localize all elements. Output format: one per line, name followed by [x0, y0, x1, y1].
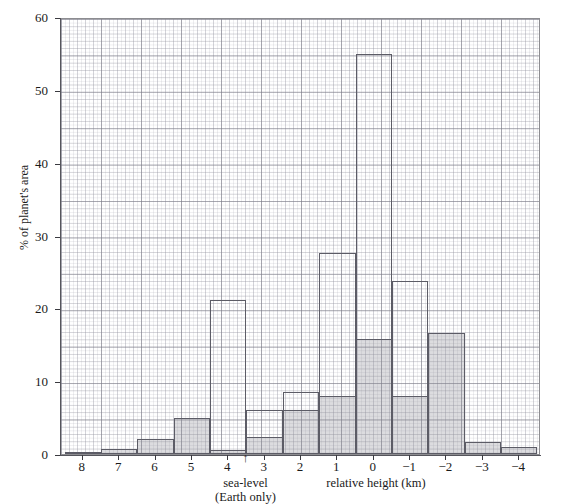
sea-level-label-line2: (Earth only): [165, 490, 325, 504]
histogram-bar: [65, 452, 101, 454]
y-tick-label: 40: [0, 157, 48, 171]
x-tick-mark: [336, 455, 337, 460]
y-tick-label: 30: [0, 230, 48, 244]
histogram-bar: [465, 442, 501, 454]
y-tick-label: 20: [0, 302, 48, 316]
y-axis-line: [60, 18, 61, 456]
y-tick-label: 10: [0, 375, 48, 389]
histogram-bar: [174, 418, 210, 454]
x-tick-label: 5: [171, 459, 211, 475]
x-tick-mark: [264, 455, 265, 460]
x-tick-mark: [300, 455, 301, 460]
histogram-bar: [428, 333, 464, 454]
histogram-bar: [501, 447, 537, 454]
x-tick-label: 2: [280, 459, 320, 475]
histogram-bar: [246, 437, 282, 454]
y-tick-label: 50: [0, 84, 48, 98]
x-tick-mark: [445, 455, 446, 460]
x-tick-label: −4: [498, 459, 538, 475]
plot-area: [60, 18, 540, 455]
y-tick-label: 0: [0, 448, 48, 462]
x-tick-mark: [227, 455, 228, 460]
x-tick-mark: [518, 455, 519, 460]
x-tick-mark: [409, 455, 410, 460]
x-tick-label: 7: [98, 459, 138, 475]
x-tick-label: −2: [425, 459, 465, 475]
x-tick-mark: [82, 455, 83, 460]
x-tick-label: −1: [389, 459, 429, 475]
x-tick-mark: [482, 455, 483, 460]
x-tick-mark: [155, 455, 156, 460]
histogram-bar: [319, 396, 355, 454]
sea-level-arrow-icon: ↑: [240, 452, 250, 463]
x-tick-label: 6: [135, 459, 175, 475]
x-tick-mark: [118, 455, 119, 460]
x-tick-label: 0: [353, 459, 393, 475]
histogram-bar: [137, 439, 173, 454]
x-axis-title: relative height (km): [286, 476, 466, 491]
histogram-bar: [392, 396, 428, 454]
histogram-bar: [283, 410, 319, 454]
histogram-bar: [356, 339, 392, 454]
x-tick-label: −3: [462, 459, 502, 475]
histogram-bar: [210, 300, 246, 454]
x-tick-label: 1: [316, 459, 356, 475]
x-tick-label: 8: [62, 459, 102, 475]
x-tick-mark: [191, 455, 192, 460]
y-tick-label: 60: [0, 11, 48, 25]
histogram-bar: [101, 449, 137, 454]
x-tick-mark: [373, 455, 374, 460]
